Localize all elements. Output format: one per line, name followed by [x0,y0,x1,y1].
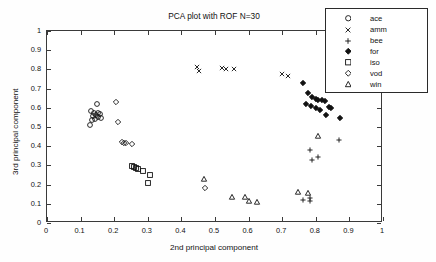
y-axis-tick [47,146,51,147]
y-axis-tick [47,50,51,51]
y-axis-tick [47,89,51,90]
y-axis-tick [377,204,381,205]
y-axis-tick [47,31,51,32]
data-point-ace [95,110,101,116]
legend-item-amm: amm [326,24,427,35]
y-axis-tick [47,69,51,70]
data-point-iso [133,165,139,171]
data-point-ace [97,111,103,117]
data-point-iso [147,172,153,178]
data-point-amm [219,66,225,72]
x-axis-tick [148,31,149,35]
y-axis-tick [377,185,381,186]
x-axis-tick-label: 0.5 [209,226,219,235]
x-axis-tick [114,217,115,221]
data-point-vod [115,119,121,125]
x-axis-tick [316,217,317,221]
x-axis-tick [383,217,384,221]
legend-item-iso: iso [326,57,427,68]
y-axis-tick [377,127,381,128]
x-axis-tick [215,217,216,221]
y-axis-tick [377,223,381,224]
x-axis-tick-label: 0 [44,226,48,235]
data-point-amm [285,73,291,79]
y-axis-tick-label: 0.5 [20,122,41,131]
data-point-iso [129,163,135,169]
data-point-ace [91,110,97,116]
data-point-for [308,103,314,109]
data-point-win [295,189,301,195]
data-point-ace [89,117,95,123]
x-axis-tick [148,217,149,221]
data-point-for [313,105,319,111]
y-axis-tick-label: 0.4 [20,141,41,150]
data-point-bee [300,197,306,203]
data-point-amm [194,65,200,71]
data-point-iso [135,166,141,172]
data-point-win [254,199,260,205]
y-axis-tick-label: 0.3 [20,160,41,169]
x-axis-tick [114,31,115,35]
y-axis-tick-label: 0.2 [20,179,41,188]
plus-marker [326,38,370,44]
data-point-win [315,133,321,139]
data-point-for [328,105,334,111]
legend-item-win: win [326,79,427,90]
x-axis-tick [47,217,48,221]
data-point-vod [202,185,208,191]
x-axis-tick-label: 0.8 [310,226,320,235]
data-point-for [303,101,309,107]
data-point-for [317,107,323,113]
y-axis-tick-label: 0.8 [20,64,41,73]
data-point-ace [92,116,98,122]
legend-label: bee [370,35,383,46]
x-axis-tick [349,217,350,221]
y-axis-tick [377,108,381,109]
y-axis-tick [47,165,51,166]
chart-legend: ace amm beeforisovodwin [325,8,428,93]
x-marker [326,27,370,33]
chart-canvas: PCA plot with ROF N=30 3rd principal com… [0,0,436,262]
data-point-amm [223,67,229,73]
y-axis-tick-label: 1 [20,26,41,35]
legend-item-bee: bee [326,35,427,46]
data-point-for [315,97,321,103]
legend-label: amm [370,24,387,35]
data-point-iso [140,168,146,174]
triangle-marker [326,81,370,88]
data-point-vod [129,141,135,147]
x-axis-tick-label: 0.3 [142,226,152,235]
y-axis-tick-label: 0.7 [20,83,41,92]
data-point-amm [196,68,202,74]
x-axis-tick-label: 0.9 [343,226,353,235]
y-axis-tick [47,185,51,186]
data-point-ace [90,113,96,119]
x-axis-tick-label: 1 [380,226,384,235]
data-point-bee [310,157,316,163]
data-point-for [309,94,315,100]
legend-item-ace: ace [326,13,427,24]
x-axis-tick [282,217,283,221]
x-axis-tick-label: 0.1 [74,226,84,235]
legend-item-vod: vod [326,68,427,79]
x-axis-tick [249,31,250,35]
x-axis-tick-label: 0.4 [175,226,185,235]
data-point-vod [121,140,127,146]
y-axis-tick [47,204,51,205]
legend-label: for [370,46,379,57]
y-axis-tick-label: 0.1 [20,198,41,207]
y-axis-title: 3rd principal component [11,89,20,175]
circle-marker [326,15,370,22]
legend-label: ace [370,13,382,24]
x-axis-tick [215,31,216,35]
x-axis-tick [316,31,317,35]
data-point-ace [94,101,100,107]
data-point-ace [93,112,99,118]
x-axis-tick [81,217,82,221]
data-point-bee [336,137,342,143]
filled-diamond-marker [326,48,370,55]
x-axis-tick [181,31,182,35]
y-axis-tick [47,127,51,128]
y-axis-tick-label: 0.6 [20,102,41,111]
x-axis-tick [181,217,182,221]
